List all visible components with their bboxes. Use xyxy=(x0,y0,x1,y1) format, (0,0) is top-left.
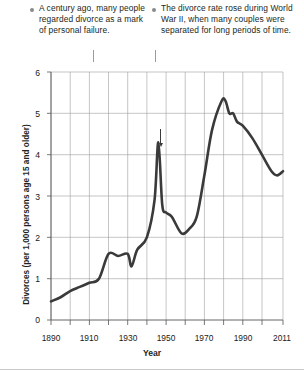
annotation-wwii: The divorce rate rose during World War I… xyxy=(152,3,294,36)
x-axis-tick-labels: 1890 1910 1930 1950 1970 1990 2011 xyxy=(0,333,304,346)
x-tick-1890: 1890 xyxy=(42,333,61,343)
x-tick-2011: 2011 xyxy=(273,333,291,343)
divorce-rate-line-chart xyxy=(0,56,304,342)
annotation-wwii-text: The divorce rate rose during World War I… xyxy=(161,3,294,36)
annotation-stigma: A century ago, many people regarded divo… xyxy=(30,3,145,36)
x-tick-1910: 1910 xyxy=(80,333,99,343)
bullet-icon xyxy=(152,8,156,12)
y-axis-tickmarks xyxy=(47,72,51,320)
x-tick-1990: 1990 xyxy=(234,333,253,343)
bullet-icon xyxy=(30,8,34,12)
x-tick-1950: 1950 xyxy=(157,333,176,343)
annotation-block: A century ago, many people regarded divo… xyxy=(0,0,304,56)
x-axis-title: Year xyxy=(0,348,304,358)
divorce-rate-figure: A century ago, many people regarded divo… xyxy=(0,0,304,373)
x-tick-1970: 1970 xyxy=(195,333,214,343)
plot-area xyxy=(0,56,304,342)
divorce-rate-series-line xyxy=(51,98,283,301)
x-axis-tickmarks xyxy=(51,320,283,325)
horizontal-gridlines xyxy=(51,72,283,279)
x-tick-1930: 1930 xyxy=(119,333,138,343)
annotation-stigma-text: A century ago, many people regarded divo… xyxy=(39,3,145,36)
figure-bottom-rule xyxy=(0,369,304,370)
